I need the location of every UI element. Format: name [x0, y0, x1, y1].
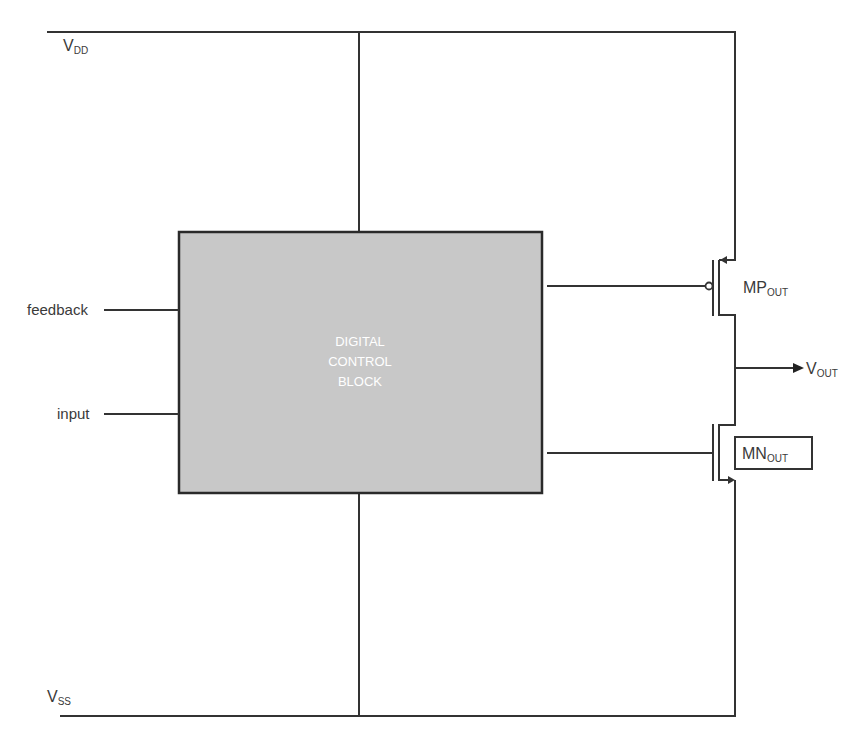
vss-label: VSS	[47, 688, 71, 707]
pmos-transistor	[713, 260, 735, 425]
input-label: input	[57, 405, 90, 422]
mp-gate-bubble	[706, 283, 713, 290]
pmos-arrow	[720, 256, 727, 264]
mp-label: MPOUT	[743, 279, 788, 298]
vout-label: VOUT	[806, 360, 838, 379]
vss-rail	[60, 480, 735, 716]
nmos-transistor	[713, 424, 733, 481]
vdd-label: VDD	[63, 37, 88, 56]
block-label-line3: BLOCK	[338, 374, 382, 389]
block-label-line1: DIGITAL	[335, 334, 385, 349]
vdd-rail	[47, 32, 735, 260]
feedback-label: feedback	[27, 301, 88, 318]
nmos-arrow	[728, 476, 735, 484]
schematic-canvas: VDD VSS feedback input DIGITAL CONTROL B…	[0, 0, 862, 750]
vout-arrow-icon	[793, 363, 804, 373]
block-label-line2: CONTROL	[328, 354, 392, 369]
